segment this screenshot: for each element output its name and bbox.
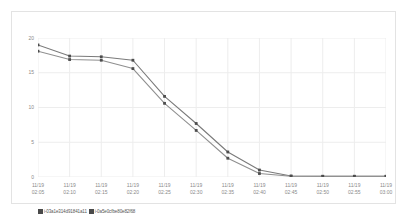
x-axis-tick-label: 11/1902:40 <box>242 182 276 195</box>
data-point-marker <box>290 175 293 177</box>
data-point-marker <box>132 67 135 70</box>
chart-card: 05101520 11/1902:0511/1902:1011/1902:151… <box>11 11 396 204</box>
data-point-marker <box>163 102 166 105</box>
y-axis-tick-label: 15 <box>20 70 34 75</box>
data-point-marker <box>258 169 261 172</box>
data-point-marker <box>68 55 71 58</box>
data-point-marker <box>226 157 229 160</box>
data-point-marker <box>132 59 135 62</box>
data-point-marker <box>195 122 198 125</box>
x-axis-tick-label: 11/1903:00 <box>369 182 403 195</box>
chart-svg <box>38 38 386 177</box>
series-line-0 <box>38 45 386 176</box>
legend-item[interactable]: i-03a1e314d91841a11 <box>38 209 87 214</box>
x-axis-tick-time: 02:55 <box>337 189 371 196</box>
data-point-marker <box>385 175 386 177</box>
data-point-marker <box>226 151 229 154</box>
x-axis-tick-label: 11/1902:50 <box>306 182 340 195</box>
x-axis-tick-time: 02:35 <box>211 189 245 196</box>
x-axis-tick-label: 11/1902:10 <box>53 182 87 195</box>
x-axis-tick-time: 02:10 <box>53 189 87 196</box>
legend-swatch-icon <box>38 209 43 214</box>
x-axis-tick-time: 02:05 <box>21 189 55 196</box>
x-axis-tick-label: 11/1902:20 <box>116 182 150 195</box>
x-axis-tick-time: 02:15 <box>84 189 118 196</box>
x-axis-tick-time: 02:50 <box>306 189 340 196</box>
y-axis-tick-label: 5 <box>20 140 34 145</box>
x-axis-tick-label: 11/1902:30 <box>179 182 213 195</box>
y-axis-tick-label: 20 <box>20 36 34 41</box>
data-point-marker <box>353 175 356 177</box>
legend-item[interactable]: i-0a5e0cfbe80e82f68 <box>89 209 135 214</box>
chart-legend: i-03a1e314d91841a11i-0a5e0cfbe80e82f68 <box>38 209 135 214</box>
x-axis-tick-label: 11/1902:15 <box>84 182 118 195</box>
x-axis-tick-time: 02:25 <box>148 189 182 196</box>
legend-item-label: i-0a5e0cfbe80e82f68 <box>95 209 135 214</box>
x-axis-tick-label: 11/1902:55 <box>337 182 371 195</box>
plot-area <box>38 38 386 177</box>
x-axis-tick-time: 02:45 <box>274 189 308 196</box>
data-point-marker <box>195 129 198 132</box>
data-point-marker <box>100 59 103 62</box>
x-axis-tick-label: 11/1902:25 <box>148 182 182 195</box>
data-point-marker <box>258 172 261 175</box>
data-point-marker <box>163 95 166 98</box>
data-point-marker <box>321 175 324 177</box>
x-axis-tick-time: 02:20 <box>116 189 150 196</box>
data-point-marker <box>38 44 39 47</box>
series-line-1 <box>38 51 386 176</box>
x-axis-tick-time: 03:00 <box>369 189 403 196</box>
x-axis-tick-time: 02:40 <box>242 189 276 196</box>
x-axis-tick-label: 11/1902:35 <box>211 182 245 195</box>
legend-swatch-icon <box>89 209 94 214</box>
x-axis-tick-time: 02:30 <box>179 189 213 196</box>
y-axis-tick-label: 10 <box>20 105 34 110</box>
data-point-marker <box>38 50 39 53</box>
legend-item-label: i-03a1e314d91841a11 <box>44 209 87 214</box>
data-point-marker <box>100 55 103 58</box>
data-point-marker <box>68 58 71 61</box>
x-axis-tick-label: 11/1902:45 <box>274 182 308 195</box>
x-axis-tick-label: 11/1902:05 <box>21 182 55 195</box>
y-axis-tick-label: 0 <box>20 175 34 180</box>
